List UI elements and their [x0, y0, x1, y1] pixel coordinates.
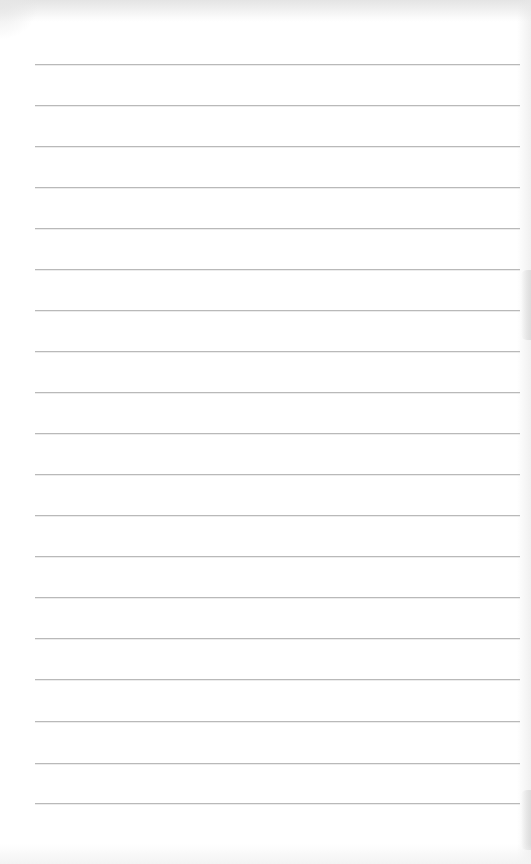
- scan-corner-shadow: [0, 0, 40, 40]
- ruled-line: [35, 721, 520, 722]
- ruled-line: [35, 597, 520, 598]
- scan-top-edge-shadow: [0, 0, 531, 22]
- ruled-line: [35, 105, 520, 106]
- scan-right-edge-blob: [521, 790, 531, 850]
- ruled-line: [35, 638, 520, 639]
- ruled-line: [35, 474, 520, 475]
- ruled-line: [35, 803, 520, 804]
- ruled-line: [35, 556, 520, 557]
- ruled-line: [35, 187, 520, 188]
- ruled-line: [35, 146, 520, 147]
- ruled-line: [35, 392, 520, 393]
- ruled-line: [35, 310, 520, 311]
- ruled-line: [35, 679, 520, 680]
- ruled-line: [35, 64, 520, 65]
- ruled-line: [35, 433, 520, 434]
- scan-right-edge-shadow: [517, 0, 531, 864]
- scan-bottom-edge-shadow: [0, 844, 531, 864]
- ruled-line: [35, 269, 520, 270]
- ruled-line: [35, 515, 520, 516]
- ruled-line: [35, 228, 520, 229]
- ruled-line: [35, 763, 520, 764]
- ruled-line: [35, 351, 520, 352]
- scan-right-edge-blob: [521, 270, 531, 340]
